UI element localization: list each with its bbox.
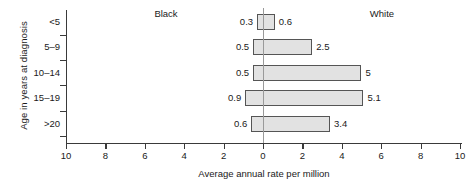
- y-axis-tick: [60, 85, 66, 86]
- x-axis-tick: [302, 144, 303, 149]
- x-axis-tick: [145, 144, 146, 149]
- x-axis-tick-label: 4: [327, 150, 357, 161]
- bar-value-label-black: 0.3: [213, 14, 253, 30]
- bar-value-label-white: 5: [366, 65, 406, 81]
- x-axis-tick-label: 0: [248, 150, 278, 161]
- x-axis-tick: [460, 144, 461, 149]
- y-axis-tick-label: <5: [4, 16, 60, 28]
- x-axis-tick-label: 4: [169, 150, 199, 161]
- x-axis-tick-label: 2: [209, 150, 239, 161]
- y-axis-tick: [60, 111, 66, 112]
- x-axis-title: Average annual rate per million: [66, 168, 462, 179]
- x-axis-tick: [184, 144, 185, 149]
- x-axis-tick-label: 10: [51, 150, 81, 161]
- bar: [253, 65, 361, 81]
- series-heading-white: White: [342, 8, 422, 19]
- x-axis-tick: [263, 144, 264, 149]
- x-axis-tick: [224, 144, 225, 149]
- bar-value-label-white: 5.1: [367, 90, 407, 106]
- x-axis-tick-label: 10: [445, 150, 470, 161]
- bar: [257, 14, 275, 30]
- bar-value-label-black: 0.9: [201, 90, 241, 106]
- bar-value-label-white: 2.5: [316, 39, 356, 55]
- bar-value-label-black: 0.6: [207, 116, 247, 132]
- x-axis-tick: [105, 144, 106, 149]
- y-axis-tick: [60, 60, 66, 61]
- bar-value-label-white: 3.4: [334, 116, 374, 132]
- x-axis-tick-label: 8: [406, 150, 436, 161]
- y-axis-tick: [60, 136, 66, 137]
- x-axis-tick: [381, 144, 382, 149]
- x-axis-tick: [342, 144, 343, 149]
- y-axis-line: [66, 10, 67, 143]
- x-axis-tick-label: 8: [90, 150, 120, 161]
- y-axis-tick: [60, 35, 66, 36]
- y-axis-tick-label: 15–19: [4, 92, 60, 104]
- x-axis-tick-label: 2: [287, 150, 317, 161]
- y-axis-tick-label: 5–9: [4, 41, 60, 53]
- x-axis-tick: [66, 144, 67, 149]
- x-axis-tick-label: 6: [130, 150, 160, 161]
- bar-value-label-white: 0.6: [279, 14, 319, 30]
- zero-reference-line: [263, 8, 264, 144]
- x-axis-tick-label: 6: [366, 150, 396, 161]
- series-heading-black: Black: [126, 8, 206, 19]
- bar-value-label-black: 0.5: [209, 65, 249, 81]
- x-axis-tick: [421, 144, 422, 149]
- bar-value-label-black: 0.5: [209, 39, 249, 55]
- y-axis-tick-label: >20: [4, 118, 60, 130]
- y-axis-tick-label: 10–14: [4, 67, 60, 79]
